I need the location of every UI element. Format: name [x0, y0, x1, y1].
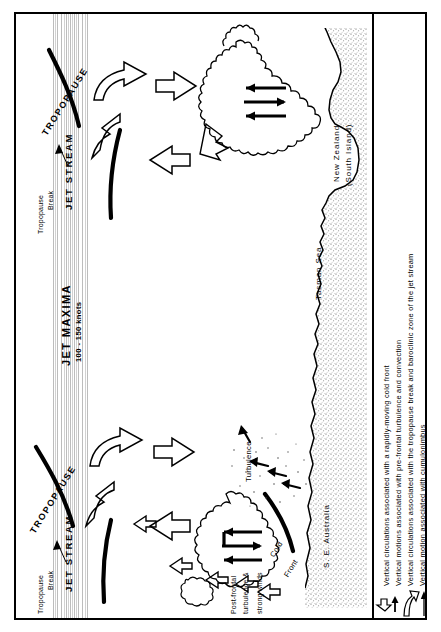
label-post-frontal-line3: strong winds — [256, 572, 263, 614]
legend-item-3-text: Vertical motion associated with cumuloni… — [418, 424, 425, 586]
label-new-zealand-line2: (South Island) — [344, 124, 353, 186]
diagram-frame: TROPOPAUSE TROPOPAUSE JET STREAM JET STR… — [14, 12, 427, 620]
label-new-zealand-line1: New Zealand — [332, 125, 341, 182]
label-post-frontal-line2: turbulence & — [242, 572, 249, 614]
legend-panel: Vertical circulations associated with a … — [374, 14, 425, 618]
legend-symbols — [374, 588, 425, 618]
label-tasman-sea: Tasman Sea — [314, 247, 323, 300]
label-tropopause-break-upper-line1: Tropopause — [37, 195, 44, 234]
small-solid-arrow-icon — [392, 596, 399, 612]
diagram-stage: TROPOPAUSE TROPOPAUSE JET STREAM JET STR… — [16, 14, 425, 618]
label-tropopause-break-upper-line2: Break — [47, 191, 54, 210]
diagram-page: TROPOPAUSE TROPOPAUSE JET STREAM JET STR… — [0, 0, 441, 632]
large-open-curved-arrow-icon — [404, 591, 419, 616]
label-jet-stream-lower: JET STREAM — [63, 515, 74, 592]
label-jet-stream-upper: JET STREAM — [63, 133, 74, 210]
label-tropopause-break-lower-line2: Break — [47, 571, 54, 590]
legend-item-0-text: Vertical circulations associated with a … — [382, 365, 391, 586]
label-turbulence: Turbulence — [244, 441, 253, 482]
label-post-frontal-line1: Post-frontal — [230, 576, 237, 614]
label-se-australia: S. E. Australia — [322, 504, 331, 568]
label-jet-maxima-speed: 100 - 150 knots — [74, 302, 83, 362]
legend-item-2-text: Vertical circulations associated with th… — [406, 253, 415, 586]
open-chevron-arrow-icon — [377, 599, 391, 611]
label-jet-maxima: JET MAXIMA — [60, 284, 72, 366]
circulation-arrows-upper — [62, 38, 262, 218]
label-tropopause-break-lower-line1: Tropopause — [37, 575, 44, 614]
legend-item-1-text: Vertical motions associated with pre-fro… — [394, 340, 403, 586]
solid-line-arrow-icon — [421, 591, 425, 616]
